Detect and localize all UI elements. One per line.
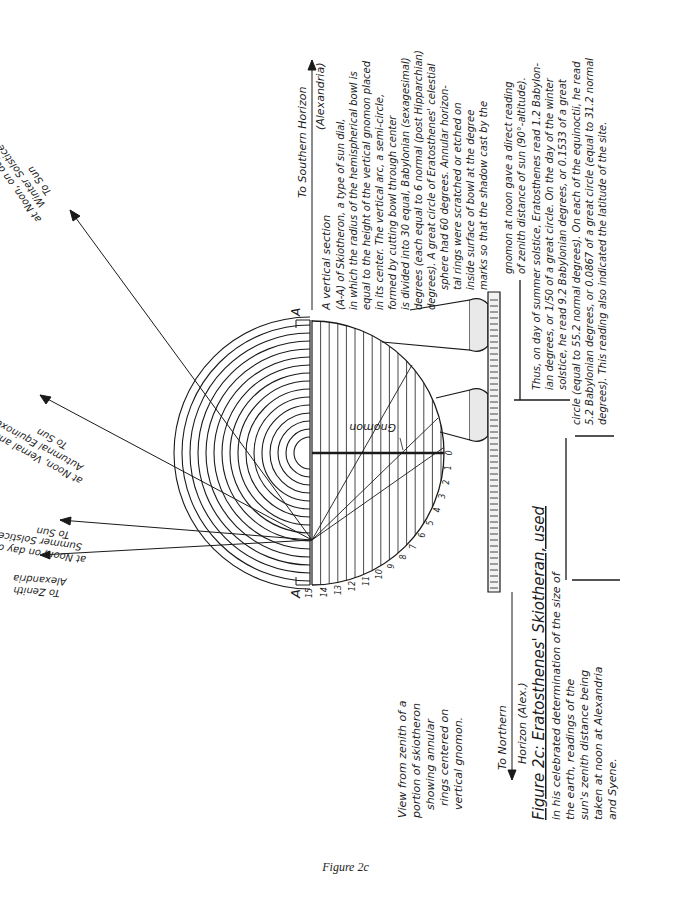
north-horizon-arrow: To Northern Horizon (Alex.) — [496, 592, 529, 780]
gnomon-pointer — [400, 438, 403, 450]
svg-text:showing annular: showing annular — [424, 718, 437, 810]
scale-tick-label: 5 — [426, 520, 435, 525]
arrowhead-summer — [60, 517, 71, 525]
bowl-pedestal-left — [436, 389, 488, 442]
scale-tick-label: 3 — [438, 494, 447, 499]
svg-text:ian degrees, or 1/50 of a grea: ian degrees, or 1/50 of a great circle. … — [544, 77, 555, 390]
degree-scale: 0123456789101112131415 — [305, 450, 454, 598]
svg-text:gnomon at noon gave a direct r: gnomon at noon gave a direct reading — [503, 81, 514, 274]
scale-tick-label: 0 — [445, 450, 454, 455]
figure-caption: Figure 2c — [0, 860, 691, 875]
svg-text:(Alexandria): (Alexandria) — [314, 63, 327, 130]
svg-text:inside surface of bowl at the: inside surface of bowl at the degree — [465, 110, 476, 290]
svg-text:degrees). This reading also in: degrees). This reading also indicated th… — [597, 122, 608, 425]
skiotheron-diagram: A A To Zenith Alexandria To Su — [0, 0, 691, 910]
svg-text:To Southern Horizon: To Southern Horizon — [296, 87, 309, 198]
svg-text:Horizon (Alex.): Horizon (Alex.) — [516, 683, 529, 765]
figure-title-block: Figure 2c: Eratosthenes' Skiotheran, use… — [530, 438, 620, 820]
scale-tick-label: 4 — [433, 507, 442, 512]
svg-text:equal to the height of the ver: equal to the height of the vertical gnom… — [361, 60, 372, 310]
section-description: A vertical section (A-A) of Skiotheron, … — [320, 50, 489, 311]
svg-text:in its center. The vertical ar: in its center. The vertical arc, a semi-… — [374, 94, 385, 310]
reading-description: gnomon at noon gave a direct reading of … — [503, 58, 614, 436]
scale-tick-label: 14 — [320, 587, 329, 597]
svg-text:and Syene.: and Syene. — [606, 758, 619, 820]
svg-text:sphere had 60 degrees. Annular: sphere had 60 degrees. Annular horizon- — [439, 85, 450, 290]
plan-view-rings — [174, 317, 310, 589]
svg-text:circle (equal to 55.2 normal d: circle (equal to 55.2 normal degrees). O… — [571, 61, 582, 425]
svg-text:View from zenith of a: View from zenith of a — [396, 700, 409, 818]
scale-tick-label: 10 — [375, 569, 384, 579]
svg-text:is divided into 30 equal, Baby: is divided into 30 equal, Babylonian (se… — [400, 57, 411, 310]
svg-text:portion of skiotheron: portion of skiotheron — [410, 703, 423, 819]
svg-text:solstice, he read 9.2 Babyloni: solstice, he read 9.2 Babylonian degrees… — [557, 78, 568, 390]
svg-text:rings centered on: rings centered on — [438, 709, 451, 806]
plan-view-description: View from zenith of a portion of skiothe… — [396, 700, 465, 819]
svg-text:of zenith distance of sun (90°: of zenith distance of sun (90°-altitude)… — [516, 77, 527, 274]
svg-text:vertical gnomon.: vertical gnomon. — [452, 717, 465, 810]
gnomon-label: Gnomon — [349, 421, 396, 434]
shadow-summer — [312, 448, 443, 540]
scale-tick-label: 11 — [362, 576, 371, 586]
svg-text:5.2 Babylonian degrees, or 0.0: 5.2 Babylonian degrees, or 0.0867 of a g… — [584, 58, 595, 425]
figure-title: Figure 2c: Eratosthenes' Skiotheran, use… — [530, 506, 548, 820]
svg-text:degrees). A great circle of Er: degrees). A great circle of Eratosthenes… — [426, 63, 437, 310]
svg-text:in which the radius of the hem: in which the radius of the hemispherical… — [348, 71, 359, 310]
arrowhead-equinox — [40, 395, 51, 404]
svg-text:(A-A) of Skiotheron, a type of: (A-A) of Skiotheron, a type of sun dial, — [335, 119, 346, 310]
svg-text:sun's zenith distance being: sun's zenith distance being — [578, 670, 591, 820]
svg-text:Thus, on day of summer solstic: Thus, on day of summer solstice, Eratost… — [531, 63, 542, 390]
svg-text:A: A — [289, 308, 303, 317]
svg-text:marks so that the shadow cast: marks so that the shadow cast by the — [478, 101, 489, 290]
svg-text:the earth, readings of the: the earth, readings of the — [564, 679, 577, 820]
scale-tick-label: 6 — [418, 533, 427, 538]
svg-text:taken at noon at Alexandria: taken at noon at Alexandria — [592, 666, 605, 820]
scale-tick-label: 7 — [409, 543, 418, 549]
annular-ring — [174, 317, 310, 589]
annular-ring — [222, 365, 310, 541]
annular-ring — [190, 333, 310, 573]
ray-label-winter: To Sun at Noon, on day of Winter Solstic… — [0, 128, 63, 225]
scale-tick-label: 15 — [305, 588, 314, 598]
svg-text:To Northern: To Northern — [496, 705, 509, 770]
arrowhead-winter — [70, 210, 80, 221]
scale-tick-label: 12 — [348, 581, 357, 591]
annular-ring — [270, 413, 310, 493]
scale-tick-label: 9 — [387, 564, 396, 569]
svg-text:tal rings were scratched or et: tal rings were scratched or etched on — [452, 102, 463, 290]
base-frieze — [488, 292, 500, 592]
ray-winter-solstice — [70, 210, 312, 540]
section-bowl: Gnomon 0123456789101112131415 — [305, 320, 454, 598]
ray-label-summer: To Sun at Noon, on day of Summer Solstic… — [0, 520, 90, 566]
svg-text:A: A — [288, 589, 303, 599]
svg-text:degrees (each equal to 6 norma: degrees (each equal to 6 normal (post Hi… — [413, 50, 424, 310]
annular-ring — [286, 429, 310, 477]
svg-text:A vertical section: A vertical section — [320, 215, 333, 311]
scale-tick-label: 13 — [334, 585, 343, 595]
ray-label-zenith: To Zenith Alexandria — [12, 573, 68, 600]
svg-text:in his celebrated determinatio: in his celebrated determination of the s… — [550, 570, 563, 820]
annular-ring — [294, 437, 310, 469]
svg-text:formed by cutting bowl through: formed by cutting bowl through center — [387, 115, 398, 310]
scale-tick-label: 1 — [444, 465, 453, 470]
shadow-equinox — [312, 418, 438, 540]
sun-rays — [40, 210, 312, 559]
ray-summer-solstice — [60, 520, 312, 540]
scale-tick-label: 8 — [399, 554, 408, 559]
scale-tick-label: 2 — [442, 480, 451, 485]
